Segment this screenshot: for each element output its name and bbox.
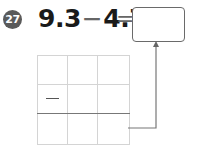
- arrowhead-icon: [153, 41, 159, 47]
- arrow-connector: [0, 0, 199, 160]
